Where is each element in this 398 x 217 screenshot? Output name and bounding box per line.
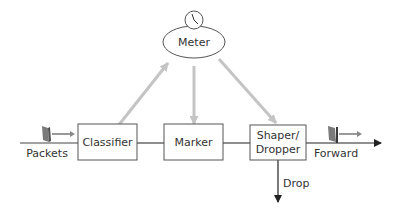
meter-node: Meter xyxy=(163,26,225,58)
diagram-canvas: Meter Classifier Marker Shaper/ Dropper … xyxy=(0,0,398,217)
shaper-dropper-node: Shaper/ Dropper xyxy=(250,125,306,160)
forward-label: Forward xyxy=(314,147,358,160)
drop-label: Drop xyxy=(283,177,309,190)
shaper-label-line1: Shaper/ xyxy=(257,129,300,142)
meter-label: Meter xyxy=(178,36,210,49)
classifier-node: Classifier xyxy=(78,124,137,160)
marker-label: Marker xyxy=(174,136,212,149)
shaper-label-line2: Dropper xyxy=(256,143,301,156)
marker-node: Marker xyxy=(164,124,223,160)
clock-icon xyxy=(185,11,203,29)
meter-to-shaper-arrow xyxy=(219,59,276,123)
packet-icon-input xyxy=(42,126,75,142)
packet-icon-output xyxy=(328,126,362,143)
packets-label: Packets xyxy=(26,147,68,160)
classifier-label: Classifier xyxy=(82,136,133,149)
classifier-to-meter-arrow xyxy=(118,63,168,126)
